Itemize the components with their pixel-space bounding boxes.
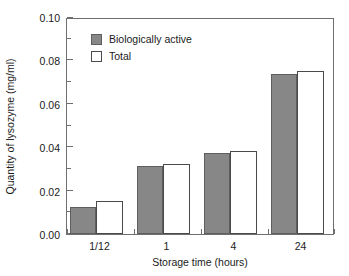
x-tick xyxy=(134,229,135,234)
y-tick-minor xyxy=(67,38,71,39)
legend-label-total: Total xyxy=(109,51,131,62)
bar-total-1-12 xyxy=(96,201,123,234)
legend-label-active: Biologically active xyxy=(109,34,192,45)
bar-active-1-12 xyxy=(70,207,96,234)
legend-swatch-icon-total xyxy=(91,51,102,62)
y-tick-minor xyxy=(67,168,71,169)
y-axis-title: Quantity of lysozyme (mg/ml) xyxy=(3,18,17,235)
y-tick-label: 0.00 xyxy=(40,230,60,240)
legend-swatch-icon-active xyxy=(91,34,102,45)
y-tick-major xyxy=(67,190,73,191)
y-tick-label: 0.02 xyxy=(40,187,60,197)
x-tick xyxy=(201,229,202,234)
x-tick xyxy=(334,229,335,234)
x-tick-label-1: 1 xyxy=(133,241,200,252)
x-tick xyxy=(268,229,269,234)
y-tick-minor xyxy=(67,81,71,82)
y-tick-major xyxy=(67,17,73,18)
bar-total-4 xyxy=(230,151,257,234)
chart-legend: Biologically active Total xyxy=(91,31,192,65)
legend-item-biologically-active: Biologically active xyxy=(91,31,192,48)
y-tick-major xyxy=(67,146,73,147)
y-tick-major xyxy=(67,103,73,104)
plot-area: Biologically active Total xyxy=(66,18,334,235)
x-tick-label-4: 4 xyxy=(200,241,267,252)
bar-active-24 xyxy=(271,74,297,234)
legend-item-total: Total xyxy=(91,48,192,65)
x-axis-title: Storage time (hours) xyxy=(66,256,334,268)
y-tick-label: 0.04 xyxy=(40,143,60,153)
bar-total-1 xyxy=(163,164,190,234)
x-tick xyxy=(67,229,68,234)
x-tick-label-1-12: 1/12 xyxy=(66,241,133,252)
y-tick-label: 0.10 xyxy=(40,13,60,23)
x-tick-label-24: 24 xyxy=(267,241,334,252)
y-tick-minor xyxy=(67,125,71,126)
chart-figure: Quantity of lysozyme (mg/ml) xyxy=(0,0,349,276)
bar-active-4 xyxy=(204,153,230,234)
y-tick-label: 0.06 xyxy=(40,100,60,110)
bar-active-1 xyxy=(137,166,163,234)
y-tick-label: 0.08 xyxy=(40,56,60,66)
bar-total-24 xyxy=(297,71,324,234)
y-tick-major xyxy=(67,59,73,60)
